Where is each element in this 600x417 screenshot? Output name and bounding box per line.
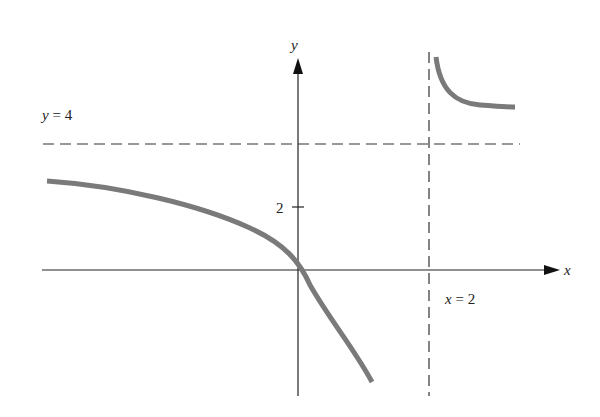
right-branch-curve	[436, 57, 515, 107]
x-axis-label: x	[563, 262, 571, 278]
horizontal-asymptote-label: y = 4	[40, 107, 73, 123]
h-asym-var: y	[40, 107, 49, 123]
y-tick-label-2: 2	[276, 200, 284, 216]
h-asym-eq: = 4	[49, 107, 73, 123]
v-asym-eq: = 2	[452, 291, 475, 307]
vertical-asymptote-label: x = 2	[444, 291, 475, 307]
y-axis-label: y	[289, 37, 298, 53]
graph: y x 2 y = 4 x = 2	[0, 0, 600, 417]
x-axis-arrow-icon	[544, 265, 560, 275]
y-axis-arrow-icon	[293, 58, 303, 74]
left-branch-curve	[47, 181, 372, 382]
